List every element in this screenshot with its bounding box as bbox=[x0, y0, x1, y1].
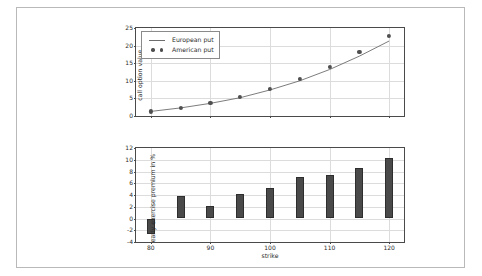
figure-frame: call option value European put American … bbox=[16, 7, 465, 268]
y-tickmark bbox=[134, 183, 136, 184]
y-tick-label: 12 bbox=[125, 145, 133, 151]
y-tickmark bbox=[134, 81, 136, 82]
legend-key-marker-icon bbox=[146, 48, 168, 51]
legend-label-american-put: American put bbox=[172, 47, 214, 53]
legend-item-european-put: European put bbox=[146, 35, 214, 45]
x-tick-label: 100 bbox=[264, 245, 275, 251]
bar bbox=[296, 177, 304, 219]
y-tick-label: 10 bbox=[125, 78, 133, 84]
y-tickmark bbox=[134, 148, 136, 149]
legend-label-european-put: European put bbox=[172, 37, 214, 43]
x-tickmark bbox=[330, 116, 331, 118]
y-tickmark bbox=[134, 98, 136, 99]
y-tick-label: 8 bbox=[129, 169, 133, 175]
y-tickmark bbox=[134, 172, 136, 173]
y-tick-label: 0 bbox=[129, 216, 133, 222]
x-tick-label: 90 bbox=[207, 245, 215, 251]
bar bbox=[355, 168, 363, 219]
bar bbox=[236, 194, 244, 218]
x-tick-label: 110 bbox=[324, 245, 335, 251]
y-tickmark bbox=[134, 207, 136, 208]
x-tickmark bbox=[210, 116, 211, 118]
y-tickmark bbox=[134, 63, 136, 64]
y-tick-label: 2 bbox=[129, 204, 133, 210]
y-tick-label: 25 bbox=[125, 25, 133, 31]
x-tickmark bbox=[270, 116, 271, 118]
bar bbox=[326, 175, 334, 218]
y-tick-label: 10 bbox=[125, 157, 133, 163]
legend-item-american-put: American put bbox=[146, 45, 214, 55]
y-tick-label: 0 bbox=[129, 113, 133, 119]
gridline-vertical bbox=[210, 148, 211, 242]
y-tickmark bbox=[134, 219, 136, 220]
y-tickmark bbox=[134, 230, 136, 231]
y-tick-label: 6 bbox=[129, 180, 133, 186]
y-tick-label: 15 bbox=[125, 60, 133, 66]
bar bbox=[177, 196, 185, 218]
chart-top-call-option-value: call option value European put American … bbox=[135, 27, 405, 117]
x-tickmark bbox=[151, 116, 152, 118]
axis-label-y-bottom: early exercise premium in % bbox=[150, 154, 156, 242]
y-tickmark bbox=[134, 116, 136, 117]
bar bbox=[206, 206, 214, 219]
y-tick-label: -2 bbox=[127, 227, 133, 233]
chart-bottom-early-exercise-premium: early exercise premium in % strike -4-20… bbox=[135, 147, 405, 243]
y-tickmark bbox=[134, 28, 136, 29]
y-tickmark bbox=[134, 46, 136, 47]
bar bbox=[266, 188, 274, 219]
y-tickmark bbox=[134, 195, 136, 196]
x-tickmark bbox=[389, 116, 390, 118]
y-tick-label: 5 bbox=[129, 95, 133, 101]
bar bbox=[385, 158, 393, 219]
chart-legend: European put American put bbox=[141, 31, 220, 59]
axis-label-x-bottom: strike bbox=[261, 253, 278, 259]
y-tickmark bbox=[134, 242, 136, 243]
x-tick-label: 120 bbox=[383, 245, 394, 251]
y-tickmark bbox=[134, 160, 136, 161]
plot-area-bottom bbox=[136, 148, 404, 242]
x-tick-label: 80 bbox=[147, 245, 155, 251]
legend-key-line-icon bbox=[146, 40, 168, 41]
y-tick-label: 4 bbox=[129, 192, 133, 198]
y-tick-label: -4 bbox=[127, 239, 133, 245]
figure-canvas: call option value European put American … bbox=[0, 0, 482, 276]
y-tick-label: 20 bbox=[125, 43, 133, 49]
